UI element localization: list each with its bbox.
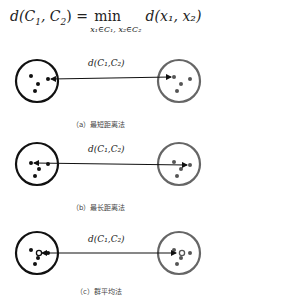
point-dot xyxy=(172,75,176,79)
caption-b: （b）最长距离法 xyxy=(72,202,125,212)
distance-label-a: d(C₁,C₂) xyxy=(88,58,125,68)
point-dot xyxy=(188,251,192,255)
linkage-diagram xyxy=(0,0,285,299)
point-dot xyxy=(175,89,179,93)
point-dot xyxy=(179,82,183,86)
cluster-c1-circle xyxy=(16,143,58,185)
point-dot xyxy=(179,167,183,171)
point-dot xyxy=(188,77,192,81)
point-dot xyxy=(36,82,40,86)
distance-label-b: d(C₁,C₂) xyxy=(88,144,125,154)
point-dot xyxy=(188,163,192,167)
point-dot xyxy=(29,248,33,252)
centroid-marker xyxy=(36,250,41,255)
point-dot xyxy=(46,162,50,166)
distance-label-c: d(C₁,C₂) xyxy=(88,234,125,244)
cluster-c2-circle xyxy=(158,60,200,102)
point-dot xyxy=(36,256,40,260)
point-dot xyxy=(175,174,179,178)
point-dot xyxy=(172,248,176,252)
point-dot xyxy=(33,89,37,93)
centroid-marker xyxy=(179,250,184,255)
point-dot xyxy=(179,256,183,260)
distance-arrow xyxy=(51,77,171,79)
point-dot xyxy=(175,262,179,266)
point-dot xyxy=(29,161,33,165)
point-dot xyxy=(46,77,50,81)
caption-a: （a）最短距离法 xyxy=(72,119,125,129)
point-dot xyxy=(172,160,176,164)
point-dot xyxy=(33,262,37,266)
point-dot xyxy=(37,167,41,171)
point-dot xyxy=(33,174,37,178)
cluster-c1-circle xyxy=(16,60,58,102)
cluster-c2-circle xyxy=(158,143,200,185)
point-dot xyxy=(29,74,33,78)
caption-c: （c）群平均法 xyxy=(76,286,122,296)
